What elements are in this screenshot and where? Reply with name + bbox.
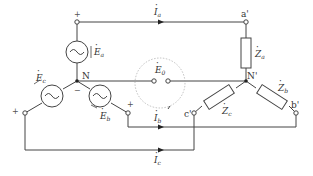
label-zc: Zc <box>222 107 232 117</box>
label-za: Za <box>255 50 265 60</box>
terminal-b <box>126 111 130 115</box>
terminal-c <box>23 111 27 115</box>
label-a-prime: a' <box>241 10 249 19</box>
label-zb: Zb <box>278 84 288 94</box>
terminal-c-prime <box>192 111 196 115</box>
label-ib: Ib <box>154 114 161 124</box>
impedance-za <box>241 38 251 68</box>
impedance-zc <box>204 85 235 110</box>
label-n: N <box>82 72 90 81</box>
label-ic: Ic <box>154 156 161 166</box>
plus-sign-c: + <box>12 108 19 116</box>
plus-sign-b: + <box>127 101 134 109</box>
terminal-switch-right <box>166 79 170 83</box>
terminal-switch-left <box>152 79 156 83</box>
label-ea: Ea <box>94 48 104 58</box>
label-b-prime: b' <box>291 101 299 110</box>
plus-sign-a: + <box>74 11 81 19</box>
label-ia: Ia <box>154 8 161 18</box>
terminal-a <box>75 20 79 24</box>
node-n-dot <box>75 79 79 83</box>
label-e0: E0 <box>155 66 165 76</box>
minus-sign: − <box>74 87 81 95</box>
label-c-prime: c' <box>184 110 192 119</box>
label-n-prime: N' <box>247 72 257 81</box>
label-ec: Ec <box>36 74 46 84</box>
terminal-a-prime <box>244 20 248 24</box>
arrow-ib-icon <box>158 125 164 130</box>
label-eb: Eb <box>100 112 110 122</box>
terminal-b-prime <box>294 111 298 115</box>
arrow-ic-icon <box>158 148 164 153</box>
arrow-ia-icon <box>158 20 164 25</box>
